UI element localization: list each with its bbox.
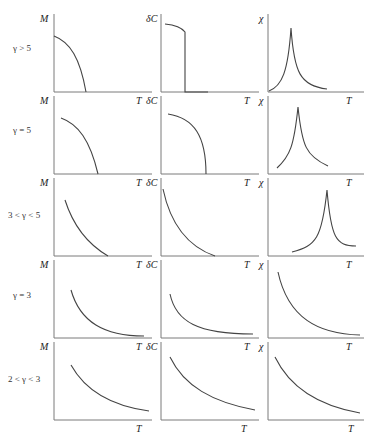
- panel-r1-chi: χ: [258, 13, 364, 92]
- panel-r1-dC: δC: [146, 13, 259, 92]
- panel-r3-dC: δC T: [146, 177, 259, 256]
- svg-text:δC: δC: [146, 95, 158, 106]
- panel-r5-dC: δC T T: [146, 341, 259, 434]
- svg-text:χ: χ: [258, 95, 264, 106]
- svg-text:M: M: [39, 95, 49, 106]
- svg-text:T: T: [348, 423, 355, 434]
- panel-r3-chi: χ T: [258, 177, 364, 256]
- svg-text:T: T: [136, 177, 143, 188]
- panel-r5-M: M T T: [39, 341, 152, 434]
- svg-text:M: M: [39, 177, 49, 188]
- svg-text:T: T: [244, 177, 251, 188]
- svg-text:T: T: [136, 341, 143, 352]
- panel-r4-chi: χ T: [258, 259, 364, 338]
- svg-text:T: T: [136, 259, 143, 270]
- row-label-gamma-eq-5: γ = 5: [12, 125, 32, 135]
- svg-text:δC: δC: [146, 259, 158, 270]
- svg-text:δC: δC: [146, 13, 158, 24]
- panel-r2-dC: δC T: [146, 95, 259, 174]
- svg-text:T: T: [136, 95, 143, 106]
- svg-text:T: T: [346, 259, 353, 270]
- svg-text:T: T: [244, 259, 251, 270]
- svg-text:χ: χ: [258, 259, 264, 270]
- svg-text:T: T: [136, 423, 143, 434]
- svg-text:T: T: [346, 95, 353, 106]
- svg-text:M: M: [39, 341, 49, 352]
- panel-r2-M: M T: [39, 95, 152, 174]
- row-label-gamma-eq-3: γ = 3: [12, 290, 32, 300]
- panel-r4-M: M T: [39, 259, 152, 338]
- svg-text:T: T: [244, 95, 251, 106]
- svg-text:T: T: [241, 423, 248, 434]
- panel-r2-chi: χ T: [258, 95, 364, 174]
- svg-text:T: T: [346, 341, 353, 352]
- figure-grid: γ > 5 γ = 5 3 < γ < 5 γ = 3 2 < γ < 3 M …: [0, 0, 376, 441]
- svg-text:δC: δC: [146, 341, 158, 352]
- svg-text:M: M: [39, 13, 49, 24]
- svg-text:M: M: [39, 259, 49, 270]
- svg-text:χ: χ: [258, 341, 264, 352]
- svg-text:T: T: [244, 341, 251, 352]
- svg-text:T: T: [346, 177, 353, 188]
- panel-r1-M: M: [39, 13, 152, 92]
- panel-r4-dC: δC T: [146, 259, 259, 338]
- svg-text:χ: χ: [258, 13, 264, 24]
- row-label-gamma-gt-5: γ > 5: [12, 43, 32, 53]
- svg-text:χ: χ: [258, 177, 264, 188]
- panel-r3-M: M T: [39, 177, 152, 256]
- svg-text:δC: δC: [146, 177, 158, 188]
- row-label-gamma-3-5: 3 < γ < 5: [8, 210, 41, 220]
- row-label-gamma-2-3: 2 < γ < 3: [8, 374, 41, 384]
- panel-r5-chi: χ T T: [258, 341, 364, 434]
